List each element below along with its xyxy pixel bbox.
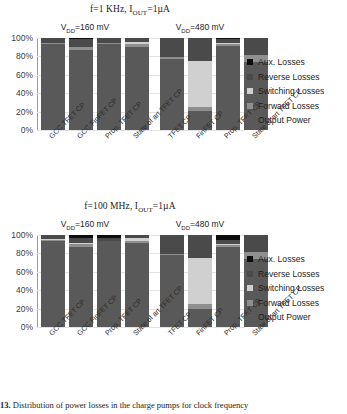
legend-swatch-icon (247, 285, 253, 291)
legend-item[interactable]: Switching Losses (247, 84, 347, 99)
figure-power-loss-distribution: f=1 KHz, IOUT=1µA VDD=160 mV VDD=480 mV … (0, 0, 347, 414)
legend-swatch-icon (247, 88, 253, 94)
bar-segment-switching-losses (188, 61, 212, 107)
bar-segment-reverse-losses (188, 38, 212, 61)
y-axis-line-top (37, 38, 38, 130)
legend-item[interactable]: Output Power (247, 113, 347, 128)
y-tick-label: 80% (16, 249, 33, 258)
group-label-vdd480-bottom: VDD=480 mV (145, 219, 255, 231)
stacked-bar (160, 235, 184, 327)
bar-segment-reverse-losses (244, 235, 268, 252)
y-axis-line-bottom (37, 235, 38, 327)
y-tick-label: 100% (11, 34, 33, 43)
legend-item[interactable]: Reverse Losses (247, 70, 347, 85)
stacked-bar (41, 38, 65, 130)
legend-swatch-icon (247, 74, 253, 80)
group-label-vdd160-bottom: VDD=160 mV (30, 219, 140, 231)
bar-segment-output-power (41, 44, 65, 130)
legend-label: Reverse Losses (258, 72, 320, 82)
legend-label: Forward Losses (258, 101, 319, 111)
legend-swatch-icon (247, 300, 253, 306)
y-tick-label: 60% (16, 71, 33, 80)
bar-segment-switching-losses (188, 258, 212, 304)
bar-segment-output-power (41, 241, 65, 327)
legend-swatch-icon (247, 103, 253, 109)
bar-segment-reverse-losses (160, 38, 184, 57)
legend-item[interactable]: Forward Losses (247, 296, 347, 311)
bar-segment-reverse-losses (160, 235, 184, 254)
group-label-vdd480-top: VDD=480 mV (145, 22, 255, 34)
legend-label: Reverse Losses (258, 269, 320, 279)
y-axis-labels-bottom: 100%80%60%40%20%0% (0, 235, 35, 327)
group-label-vdd160-top: VDD=160 mV (30, 22, 140, 34)
y-tick-label: 100% (11, 231, 33, 240)
legend-item[interactable]: Reverse Losses (247, 267, 347, 282)
legend-item[interactable]: Aux. Losses (247, 252, 347, 267)
legend-label: Switching Losses (258, 86, 324, 96)
legend-label: Aux. Losses (258, 254, 305, 264)
legend-swatch-icon (247, 117, 253, 123)
legend-item[interactable]: Forward Losses (247, 99, 347, 114)
legend-label: Forward Losses (258, 298, 319, 308)
x-axis-labels-bottom: GCC TFET CPGCC FinFET CPProp. TFET CPSta… (0, 329, 260, 389)
figure-caption: 13. Distribution of power losses in the … (0, 400, 347, 410)
chart-title-1: f=1 KHz, IOUT=1µA (0, 4, 260, 17)
legend-swatch-icon (247, 256, 253, 262)
legend-label: Aux. Losses (258, 57, 305, 67)
legend-item[interactable]: Output Power (247, 310, 347, 325)
bar-segment-reverse-losses (244, 38, 268, 55)
y-tick-label: 20% (16, 107, 33, 116)
legend-label: Output Power (258, 115, 311, 125)
legend-item[interactable]: Aux. Losses (247, 55, 347, 70)
x-axis-labels-top: GCC TFET CPGCC FinFET CPProp. TFET CPSta… (0, 132, 260, 192)
legend-bottom: Aux. LossesReverse LossesSwitching Losse… (247, 252, 347, 325)
caption-text: Distribution of power losses in the char… (13, 400, 248, 410)
y-tick-label: 40% (16, 89, 33, 98)
chart-title-2-text: f=100 MHz, IOUT=1µA (84, 201, 175, 211)
legend-swatch-icon (247, 271, 253, 277)
legend-swatch-icon (247, 314, 253, 320)
stacked-bar (160, 38, 184, 130)
y-tick-label: 80% (16, 52, 33, 61)
y-tick-label: 20% (16, 304, 33, 313)
legend-top: Aux. LossesReverse LossesSwitching Losse… (247, 55, 347, 128)
chart-title-2: f=100 MHz, IOUT=1µA (0, 201, 260, 214)
legend-swatch-icon (247, 59, 253, 65)
y-tick-label: 40% (16, 286, 33, 295)
legend-item[interactable]: Switching Losses (247, 281, 347, 296)
caption-number: 13. (0, 400, 11, 410)
legend-label: Output Power (258, 312, 311, 322)
bar-segment-reverse-losses (188, 235, 212, 258)
y-tick-label: 60% (16, 268, 33, 277)
legend-label: Switching Losses (258, 283, 324, 293)
bar-segment-reverse-losses (69, 39, 93, 46)
y-axis-labels-top: 100%80%60%40%20%0% (0, 38, 35, 130)
stacked-bar (41, 235, 65, 327)
chart-title-1-text: f=1 KHz, IOUT=1µA (90, 4, 170, 14)
